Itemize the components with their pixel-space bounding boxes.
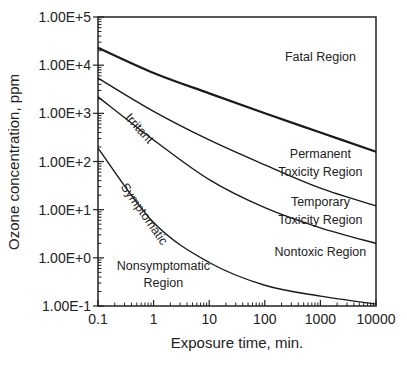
x-tick-label: 100 [253,311,277,327]
y-tick-label: 1.00E+2 [38,154,91,170]
x-tick-label: 0.1 [88,311,108,327]
y-tick-label: 1.00E+5 [38,9,91,25]
x-tick-label: 10000 [357,311,396,327]
region-label: Toxicity Region [278,165,362,179]
y-tick-label: 1.00E-1 [42,298,91,314]
region-label: Region [144,276,184,290]
region-label: Fatal Region [285,50,356,64]
x-tick-label: 10 [201,311,217,327]
y-tick-label: 1.00E+1 [38,202,91,218]
region-label: Nonsymptomatic [117,259,210,273]
ozone-toxicity-chart: 0.11101001000100001.00E-11.00E+01.00E+11… [0,0,407,365]
region-label: Symptomatic [118,180,171,247]
region-label: Temporary [291,195,351,209]
region-labels: Fatal RegionPermanentToxicity RegionTemp… [117,50,366,289]
y-axis-label: Ozone concentration, ppm [5,74,22,250]
region-label: Irritant [122,111,156,147]
x-tick-label: 1000 [305,311,336,327]
x-tick-label: 1 [150,311,158,327]
y-tick-label: 1.00E+0 [38,250,91,266]
region-label: Nontoxic Region [275,245,367,259]
region-label: Permanent [290,147,352,161]
curve-irritant [98,78,376,206]
x-axis-label: Exposure time, min. [171,334,304,351]
region-label: Toxicity Region [278,213,362,227]
y-tick-label: 1.00E+3 [38,105,91,121]
y-tick-label: 1.00E+4 [38,57,91,73]
